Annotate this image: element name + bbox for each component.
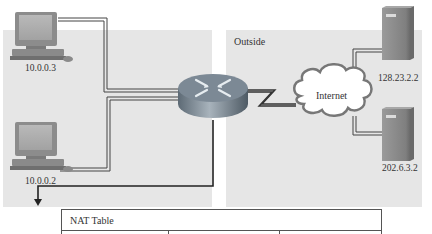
arrow-head-icon [34, 199, 42, 206]
router-icon[interactable] [178, 74, 248, 118]
pc-top-address: 10.0.0.3 [25, 63, 56, 73]
nat-table: NAT Table [61, 209, 382, 234]
pc-icon[interactable] [10, 122, 73, 172]
server-top-address: 128.23.2.2 [378, 73, 418, 83]
link-pc-top-router [58, 18, 180, 92]
link-internet-server-bottom [353, 116, 382, 135]
pc-icon[interactable] [10, 12, 73, 62]
link-pc-bottom-router [60, 97, 180, 171]
internet-label: Internet [316, 90, 347, 101]
nat-table-header-row [62, 230, 381, 234]
nat-flow-arrow [38, 120, 213, 200]
pc-bottom-address: 10.0.0.2 [25, 176, 56, 186]
server-bottom-address: 202.6.3.2 [382, 163, 418, 173]
server-icon[interactable] [382, 107, 414, 161]
nat-table-column-2 [169, 231, 280, 234]
nat-table-column-3 [280, 231, 381, 234]
server-icon[interactable] [382, 6, 414, 60]
nat-table-title: NAT Table [70, 215, 114, 226]
nat-table-column-1 [62, 231, 169, 234]
link-router-internet [246, 90, 296, 106]
